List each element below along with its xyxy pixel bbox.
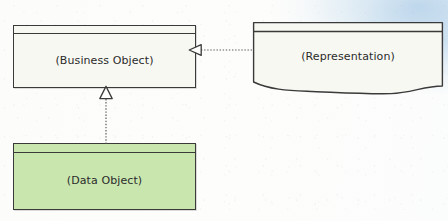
node-data-object[interactable]: (Data Object) [13,143,196,210]
node-header-divider [14,33,195,34]
connector-data-object-realizes-business-object[interactable] [92,84,120,146]
diagram-canvas: (Business Object) (Representation) (Data… [0,0,448,221]
hollow-triangle-arrowhead-icon [189,45,201,56]
hollow-triangle-arrowhead-icon [100,86,112,98]
node-header-divider [14,152,195,153]
node-data-object-label: (Data Object) [14,174,195,187]
node-representation-label: (Representation) [251,50,445,63]
node-business-object[interactable]: (Business Object) [13,25,196,88]
node-business-object-label: (Business Object) [14,54,195,67]
node-representation[interactable]: (Representation) [251,20,445,96]
connector-representation-realizes-business-object[interactable] [186,40,258,60]
